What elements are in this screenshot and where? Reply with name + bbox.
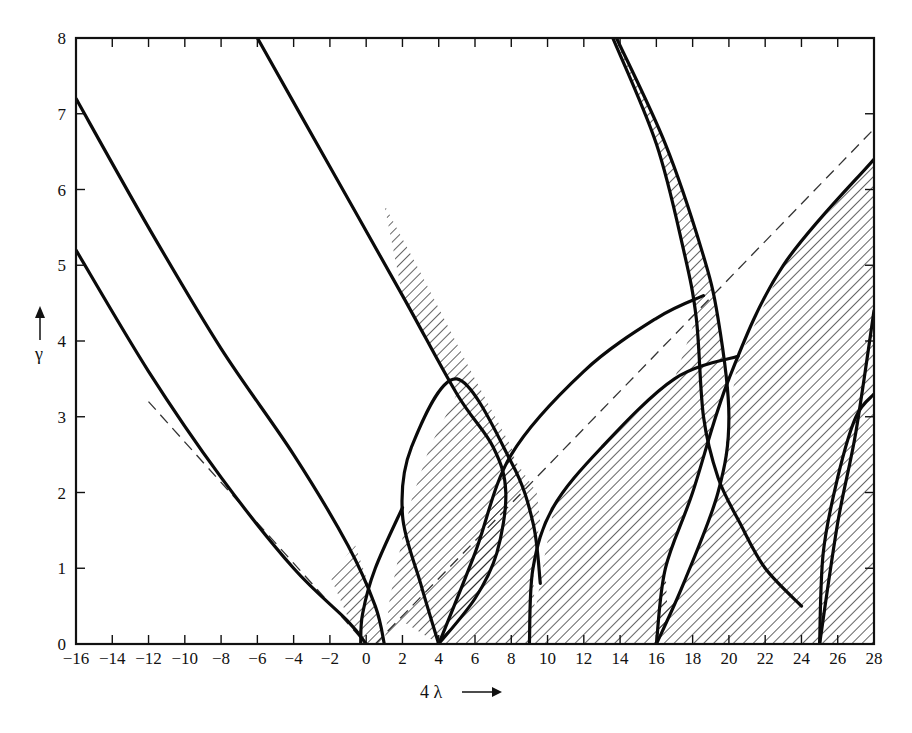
y-tick-label: 8: [58, 29, 67, 48]
x-tick-label: −12: [135, 649, 162, 668]
x-tick-label: 6: [471, 649, 480, 668]
x-tick-label: 0: [362, 649, 371, 668]
y-axis-label: γ: [34, 344, 43, 364]
x-tick-label: 28: [866, 649, 883, 668]
x-tick-label: 20: [720, 649, 737, 668]
mathieu-stability-chart: −16−14−12−10−8−6−4−202468101214161820222…: [0, 0, 912, 733]
x-tick-label: −6: [248, 649, 266, 668]
x-axis-label: 4 λ: [420, 682, 443, 702]
x-tick-label: 18: [684, 649, 701, 668]
y-tick-label: 6: [58, 181, 67, 200]
y-tick-label: 7: [58, 105, 67, 124]
y-tick-label: 0: [58, 635, 67, 654]
x-tick-label: 8: [507, 649, 516, 668]
x-tick-label: 10: [539, 649, 556, 668]
y-tick-label: 4: [58, 332, 67, 351]
x-tick-label: 24: [793, 649, 811, 668]
x-tick-label: 16: [648, 649, 665, 668]
x-tick-label: −4: [285, 649, 304, 668]
x-tick-label: 26: [829, 649, 846, 668]
y-tick-label: 2: [58, 484, 67, 503]
boundary-curve-a0: [76, 250, 366, 644]
y-tick-label: 5: [58, 256, 67, 275]
y-axis-arrow-icon: [35, 306, 45, 340]
x-tick-label: 12: [575, 649, 592, 668]
x-tick-label: 4: [434, 649, 443, 668]
x-tick-label: −10: [172, 649, 199, 668]
x-tick-label: −8: [212, 649, 230, 668]
x-tick-label: 2: [398, 649, 407, 668]
y-tick-label: 3: [58, 408, 67, 427]
x-tick-label: −2: [321, 649, 339, 668]
x-tick-label: 22: [757, 649, 774, 668]
x-tick-label: −16: [63, 649, 90, 668]
x-tick-label: −14: [99, 649, 126, 668]
x-axis-arrow-icon: [462, 687, 502, 697]
x-tick-label: 14: [612, 649, 630, 668]
y-tick-label: 1: [58, 559, 67, 578]
